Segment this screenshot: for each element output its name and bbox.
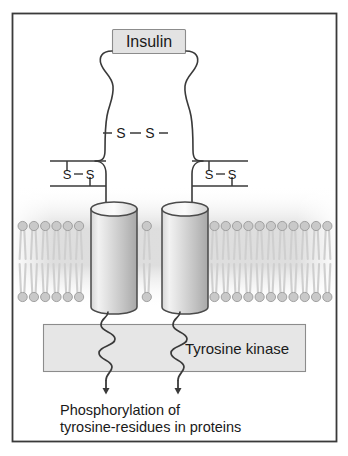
disulfide-central-s-right: S xyxy=(145,125,154,141)
lipid-tail xyxy=(42,264,43,292)
lipid-head-group xyxy=(41,292,50,301)
lipid-head-group xyxy=(74,292,83,301)
lipid-tail xyxy=(306,231,307,259)
output-line-2: tyrosine-residues in proteins xyxy=(60,419,241,435)
lipid-head-group xyxy=(41,221,50,230)
disulfide-right-s-left: S xyxy=(205,167,214,182)
lipid-tail xyxy=(24,231,25,259)
disulfide-right-s-right: S xyxy=(228,167,237,182)
lipid-head-group xyxy=(29,292,38,301)
lipid-head-group xyxy=(244,221,253,230)
cylinder-left xyxy=(91,202,137,314)
lipid-tail xyxy=(81,231,82,259)
lipid-head-group xyxy=(323,221,332,230)
lipid-tail xyxy=(76,264,77,292)
lipid-head-group xyxy=(300,292,309,301)
lipid-tail xyxy=(268,231,269,259)
lipid-tail xyxy=(24,264,25,292)
lipid-head-group xyxy=(142,221,151,230)
lipid-tail xyxy=(239,264,240,292)
lipid-tail xyxy=(257,231,258,259)
lipid-head-group xyxy=(29,221,38,230)
lipid-tail xyxy=(306,264,307,292)
lipid-tail xyxy=(273,264,274,292)
lipid-tail xyxy=(212,231,213,259)
cylinder-right xyxy=(162,202,208,314)
lipid-head-group xyxy=(323,292,332,301)
lipid-tail xyxy=(261,264,262,292)
lipid-tail xyxy=(250,264,251,292)
lipid-head-group xyxy=(289,292,298,301)
lipid-tail xyxy=(223,231,224,259)
lipid-head-group xyxy=(278,292,287,301)
lipid-tail xyxy=(227,264,228,292)
lipid-head-group xyxy=(210,292,219,301)
lipid-tail xyxy=(36,231,37,259)
lipid-head-group xyxy=(244,292,253,301)
lipid-tail xyxy=(69,264,70,292)
lipid-head-group xyxy=(52,221,61,230)
lipid-tail xyxy=(245,231,246,259)
lipid-tail xyxy=(302,264,303,292)
lipid-tail xyxy=(257,264,258,292)
lipid-tail xyxy=(212,264,213,292)
lipid-tail xyxy=(318,231,319,259)
output-line-1: Phosphorylation of xyxy=(60,402,181,418)
lipid-head-group xyxy=(232,221,241,230)
lipid-head-group xyxy=(221,221,230,230)
cylinder-left-cap xyxy=(91,202,137,216)
lipid-head-group xyxy=(278,221,287,230)
lipid-tail xyxy=(42,231,43,259)
lipid-tail xyxy=(76,231,77,259)
lipid-tail xyxy=(234,264,235,292)
lipid-tail xyxy=(295,264,296,292)
lipid-tail xyxy=(54,264,55,292)
lipid-tail xyxy=(313,264,314,292)
lipid-tail xyxy=(144,264,145,292)
kinase-label: Tyrosine kinase xyxy=(185,340,289,357)
lipid-head-group xyxy=(210,221,219,230)
lipid-tail xyxy=(148,264,149,292)
lipid-head-group xyxy=(63,292,72,301)
insulin-label: Insulin xyxy=(126,33,172,50)
cylinder-right-cap xyxy=(162,202,208,216)
lipid-head-group xyxy=(221,292,230,301)
lipid-tail xyxy=(239,231,240,259)
lipid-tail xyxy=(261,231,262,259)
lipid-head-group xyxy=(300,221,309,230)
lipid-tail xyxy=(291,264,292,292)
diagram-canvas: Insulin S S S S xyxy=(0,0,348,456)
lipid-tail xyxy=(250,231,251,259)
lipid-tail xyxy=(81,264,82,292)
lipid-head-group xyxy=(255,292,264,301)
lipid-tail xyxy=(273,231,274,259)
lipid-tail xyxy=(47,264,48,292)
lipid-tail xyxy=(245,264,246,292)
insulin-receptor-svg: Insulin S S S S xyxy=(0,0,348,456)
lipid-tail xyxy=(279,231,280,259)
lipid-head-group xyxy=(18,292,27,301)
lipid-tail xyxy=(295,231,296,259)
lipid-tail xyxy=(329,231,330,259)
lipid-tail xyxy=(148,231,149,259)
insulin-ligand: Insulin xyxy=(113,30,186,54)
lipid-head-group xyxy=(52,292,61,301)
lipid-tail xyxy=(329,264,330,292)
lipid-tail xyxy=(20,264,21,292)
lipid-head-group xyxy=(63,221,72,230)
lipid-tail xyxy=(313,231,314,259)
lipid-head-group xyxy=(74,221,83,230)
lipid-tail xyxy=(234,231,235,259)
lipid-head-group xyxy=(18,221,27,230)
lipid-tail xyxy=(279,264,280,292)
lipid-tail xyxy=(284,264,285,292)
lipid-tail xyxy=(69,231,70,259)
lipid-tail xyxy=(291,231,292,259)
lipid-tail xyxy=(31,264,32,292)
lipid-tail xyxy=(216,231,217,259)
lipid-tail xyxy=(324,264,325,292)
lipid-tail xyxy=(302,231,303,259)
disulfide-central-s-left: S xyxy=(116,125,125,141)
lipid-tail xyxy=(58,264,59,292)
lipid-head-group xyxy=(142,292,151,301)
